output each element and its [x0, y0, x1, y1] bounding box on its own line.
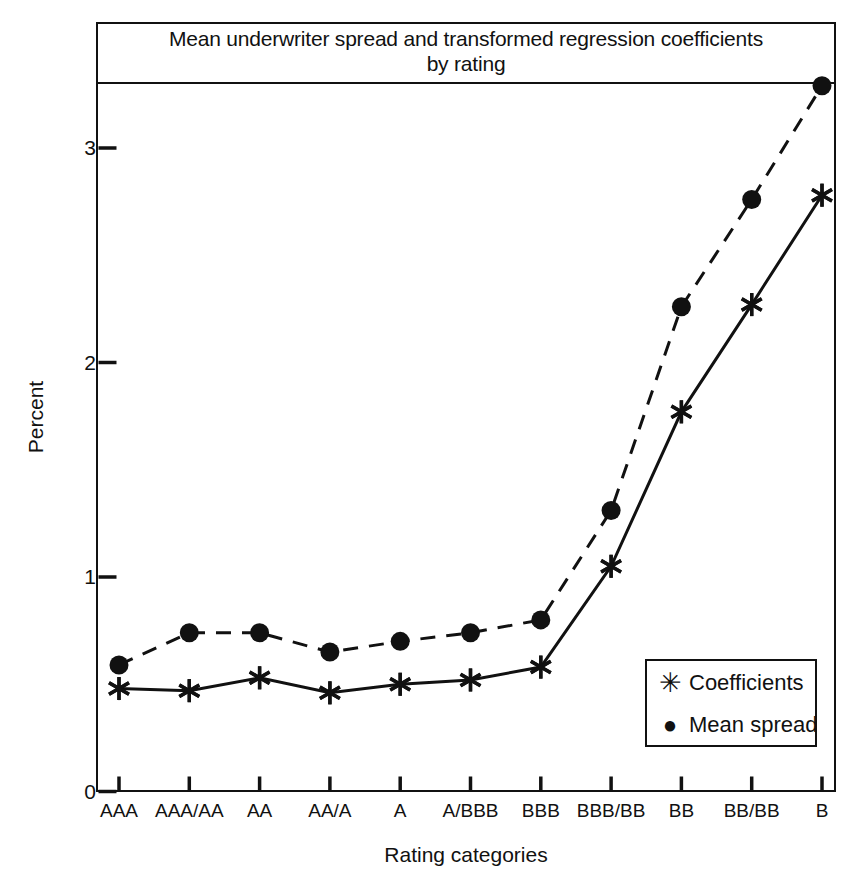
figure-chart: Mean underwriter spread and transformed …	[0, 0, 864, 893]
data-point-coefficients-10	[812, 184, 832, 207]
legend-label-mean-spread: Mean spread	[689, 712, 817, 738]
data-point-mean-spread-9	[742, 190, 761, 209]
data-point-mean-spread-5	[461, 623, 480, 642]
data-point-mean-spread-7	[602, 501, 621, 520]
legend-item-mean-spread: ● Mean spread	[657, 704, 817, 746]
series-line-mean-spread	[119, 86, 822, 665]
data-point-mean-spread-8	[672, 297, 691, 316]
data-point-mean-spread-10	[813, 76, 832, 95]
data-point-mean-spread-6	[531, 610, 550, 629]
legend: ✳ Coefficients ● Mean spread	[645, 659, 817, 747]
series-line-coefficients	[119, 195, 822, 693]
dot-marker-icon: ●	[657, 713, 683, 737]
data-point-mean-spread-4	[391, 632, 410, 651]
legend-item-coefficients: ✳ Coefficients	[657, 662, 804, 704]
data-point-mean-spread-1	[180, 623, 199, 642]
legend-label-coefficients: Coefficients	[689, 670, 804, 696]
data-point-mean-spread-3	[320, 643, 339, 662]
star-marker-icon: ✳	[657, 670, 683, 697]
data-point-mean-spread-2	[250, 623, 269, 642]
data-point-mean-spread-0	[110, 655, 129, 674]
chart-plot-area	[0, 0, 864, 893]
